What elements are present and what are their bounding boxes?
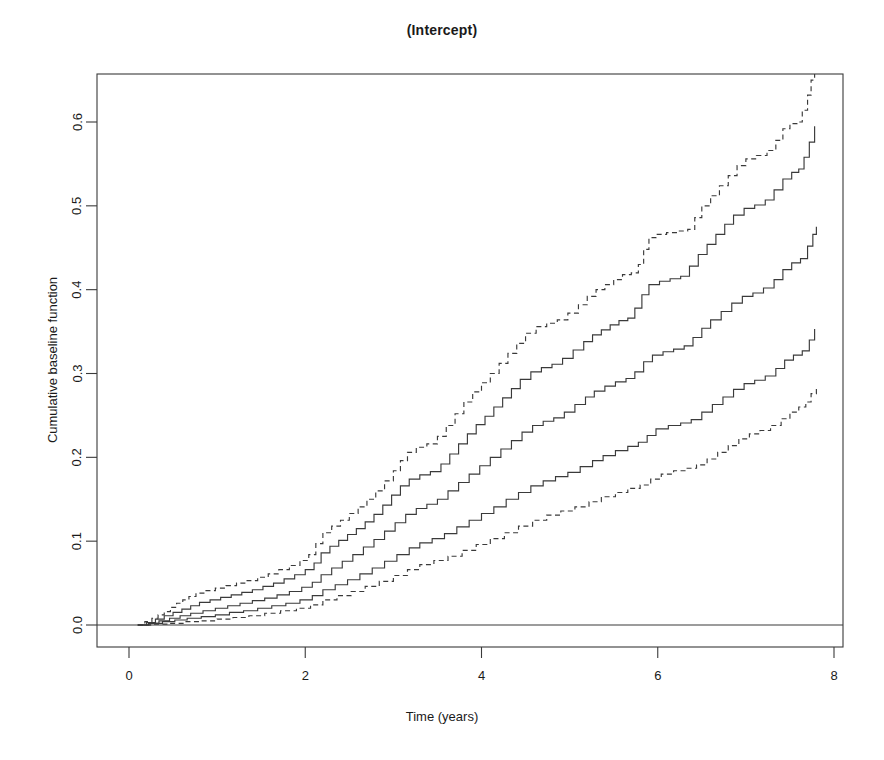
x-axis-title: Time (years) [0,709,884,724]
series-layer [138,68,817,625]
series-lower-inner-band [138,329,815,625]
x-tick-label: 6 [654,668,661,683]
series-upper-inner-band [138,126,815,625]
axes-layer [86,74,843,658]
x-tick-label: 2 [302,668,309,683]
cumulative-baseline-function-plot: 024680.00.10.20.30.40.50.6 [0,0,884,760]
y-tick-label: 0.5 [70,197,85,215]
series-lower-confidence-band [138,386,817,625]
x-tick-label: 4 [478,668,485,683]
series-central-estimate [138,227,817,625]
x-tick-label: 8 [830,668,837,683]
series-upper-confidence-band [138,68,815,625]
y-tick-label: 0.4 [70,281,85,299]
x-tick-label: 0 [125,668,132,683]
y-tick-label: 0.2 [70,448,85,466]
y-tick-label: 0.6 [70,113,85,131]
y-tick-label: 0.0 [70,616,85,634]
y-tick-label: 0.1 [70,532,85,550]
y-tick-label: 0.3 [70,364,85,382]
plot-box [97,74,843,647]
chart-page: (Intercept) 024680.00.10.20.30.40.50.6 C… [0,0,884,760]
